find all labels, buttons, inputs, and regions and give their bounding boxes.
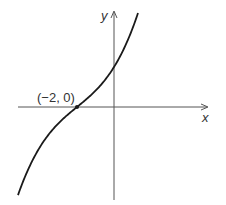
point-label: (−2, 0) bbox=[37, 90, 75, 105]
cubic-graph: (−2, 0) x y bbox=[0, 0, 226, 205]
x-axis-label: x bbox=[201, 110, 209, 125]
cubic-curve bbox=[18, 13, 138, 195]
point-marker bbox=[75, 105, 79, 109]
y-axis-label: y bbox=[100, 8, 109, 23]
